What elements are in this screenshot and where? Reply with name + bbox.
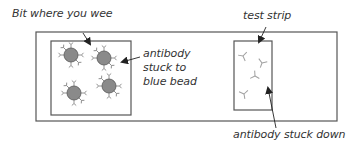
antibody-bead-icon [62,81,87,106]
bead-antibody-label-line1: antibody [143,47,197,61]
free-antibody-icon [250,71,261,83]
antibody-bead-icon [97,74,122,99]
wee-area-box [51,41,131,115]
bead-antibody-label-line2: stuck to [143,61,197,75]
free-antibody-icon [237,51,246,61]
bead-antibody-label-line3: blue bead [143,75,197,89]
free-antibody-icon [239,90,249,99]
test-strip-arrow [259,27,266,42]
antibody-bead-icon [59,43,84,68]
test-strip-label: test strip [243,9,291,22]
test-strip-box [234,41,272,110]
wee-area-arrow [83,33,90,44]
wee-area-label: Bit where you wee [12,7,112,20]
antibody-stuck-down-label: antibody stuck down [233,128,346,141]
antibody-bead-icon [92,46,117,71]
free-antibody-icon [256,59,267,70]
bead-antibody-label: antibody stuck to blue bead [143,47,197,89]
